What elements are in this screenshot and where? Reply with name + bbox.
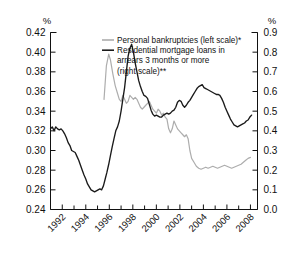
y-axis-right-tick-label: 0.0	[264, 204, 278, 215]
y-axis-right-tick-label: 0.1	[264, 184, 278, 195]
y-axis-right-tick-label: 0.2	[264, 165, 278, 176]
y-axis-right-unit-label: %	[268, 15, 277, 26]
y-axis-right-tick-label: 0.9	[264, 27, 278, 38]
y-axis-left-tick-label: 0.26	[26, 184, 46, 195]
y-axis-left-tick-label: 0.24	[26, 204, 46, 215]
y-axis-left-tick-label: 0.40	[26, 47, 46, 58]
legend-label: Residential mortgage loans in	[117, 46, 225, 55]
y-axis-left-tick-label: 0.34	[26, 106, 46, 117]
chart-container: 0.240.260.280.300.320.340.360.380.400.42…	[0, 0, 296, 263]
y-axis-left-tick-label: 0.30	[26, 145, 46, 156]
y-axis-left-tick-label: 0.38	[26, 66, 46, 77]
y-axis-left-unit-label: %	[43, 15, 52, 26]
legend-label: Personal bankruptcies (left scale)*	[117, 36, 242, 45]
y-axis-left-tick-label: 0.32	[26, 125, 46, 136]
y-axis-right-tick-label: 0.7	[264, 66, 278, 77]
dual-axis-line-chart: 0.240.260.280.300.320.340.360.380.400.42…	[0, 0, 296, 263]
y-axis-left-tick-label: 0.42	[26, 27, 46, 38]
y-axis-right-tick-label: 0.6	[264, 86, 278, 97]
y-axis-right-tick-label: 0.5	[264, 106, 278, 117]
y-axis-right-tick-label: 0.3	[264, 145, 278, 156]
y-axis-right-tick-label: 0.8	[264, 47, 278, 58]
y-axis-left-tick-label: 0.36	[26, 86, 46, 97]
y-axis-left-tick-label: 0.28	[26, 165, 46, 176]
legend-label: arrears 3 months or more	[117, 56, 210, 65]
y-axis-right-tick-label: 0.4	[264, 125, 278, 136]
legend-label: (right scale)**	[117, 67, 167, 76]
